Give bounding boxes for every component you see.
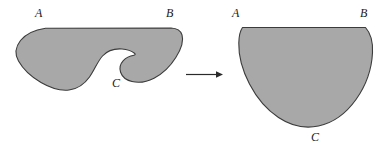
left-label-b: B: [166, 7, 173, 19]
left-label-c: C: [112, 77, 120, 89]
left-label-a: A: [35, 7, 42, 19]
right-region-shape: [239, 28, 373, 128]
right-label-b: B: [360, 7, 367, 19]
transformation-arrow: [186, 71, 223, 77]
figure-container: A B C A B C: [0, 0, 390, 152]
left-region-shape: [16, 28, 183, 90]
right-label-c: C: [311, 131, 319, 143]
figure-canvas: [0, 0, 390, 152]
right-label-a: A: [232, 7, 239, 19]
